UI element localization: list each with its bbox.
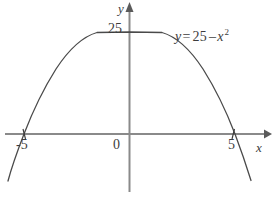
equation-annotation: y=25–x2 <box>175 28 229 44</box>
equation-variable: x <box>217 29 223 44</box>
x-tick-label-pos5: 5 <box>228 138 235 152</box>
parabola-figure: y x 25 -5 0 5 y=25–x2 <box>0 0 275 200</box>
equation-minus: – <box>208 29 217 44</box>
x-axis-arrowhead <box>264 130 272 139</box>
plot-canvas <box>0 0 275 200</box>
x-axis-label: x <box>256 141 262 154</box>
y-axis-arrowhead <box>126 2 134 12</box>
equation-constant: 25 <box>192 29 208 44</box>
y-axis-label: y <box>118 2 124 15</box>
x-tick-label-neg5: -5 <box>16 138 28 152</box>
equation-exponent: 2 <box>224 27 230 37</box>
origin-label: 0 <box>113 138 120 152</box>
equation-equals: = <box>181 29 191 44</box>
y-tick-label-25: 25 <box>108 22 122 36</box>
